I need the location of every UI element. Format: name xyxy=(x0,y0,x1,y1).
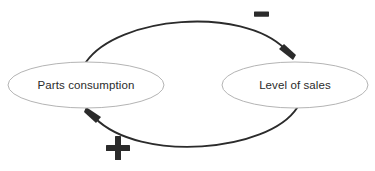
polarity-negative-icon xyxy=(254,12,269,17)
top-curve-path xyxy=(86,22,285,62)
plus-bar-vertical xyxy=(115,136,121,160)
minus-bar xyxy=(254,12,269,17)
causal-loop-diagram: Parts consumption Level of sales xyxy=(0,0,375,171)
parts-consumption-label: Parts consumption xyxy=(38,79,135,91)
node-parts-consumption[interactable]: Parts consumption xyxy=(8,62,164,108)
node-level-of-sales[interactable]: Level of sales xyxy=(222,62,368,108)
level-of-sales-label: Level of sales xyxy=(259,79,331,91)
link-consumption-to-sales[interactable] xyxy=(86,22,296,62)
diagram-canvas: Parts consumption Level of sales xyxy=(0,0,375,171)
bottom-curve-path xyxy=(95,108,297,147)
polarity-positive-icon xyxy=(106,136,130,160)
